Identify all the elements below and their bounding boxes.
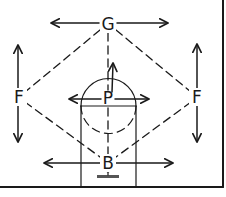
label-guard: G	[101, 14, 114, 34]
label-post: P	[103, 88, 113, 108]
connection-forward-left-back	[25, 102, 100, 157]
label-forward-right: F	[192, 87, 202, 107]
connection-guard-forward-right	[116, 30, 191, 92]
court-diagram: G F F P B	[0, 0, 226, 197]
connection-forward-right-back	[116, 102, 191, 157]
label-forward-left: F	[14, 87, 24, 107]
label-back: B	[102, 153, 114, 173]
connection-guard-forward-left	[25, 30, 100, 92]
